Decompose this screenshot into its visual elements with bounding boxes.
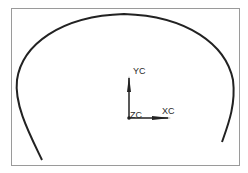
y-axis-label: YC — [133, 66, 146, 76]
z-axis-label: ZC — [130, 110, 142, 120]
x-axis-label: XC — [162, 106, 175, 116]
viewport-frame — [12, 9, 240, 166]
graphics-viewport[interactable]: YC XC ZC — [0, 0, 248, 173]
